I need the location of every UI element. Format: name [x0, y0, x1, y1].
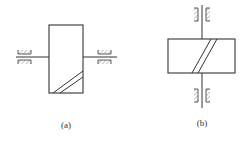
helix-line-1 — [53, 71, 83, 93]
diagram-canvas — [0, 0, 249, 141]
bearing-left-top — [18, 50, 31, 54]
diagram-b — [168, 5, 235, 108]
gear-body-a — [49, 25, 83, 93]
bearing-left-bottom — [18, 60, 31, 64]
helix-line-1 — [192, 39, 211, 73]
helix-line-2 — [198, 39, 217, 73]
bearing-bottom-right — [206, 89, 210, 102]
bearing-top-right — [206, 8, 210, 21]
bearing-right-top — [98, 50, 111, 54]
caption-a: (a) — [61, 120, 71, 130]
diagram-a — [16, 25, 117, 93]
bearing-bottom-left — [194, 89, 198, 102]
bearing-right-bottom — [98, 60, 111, 64]
caption-b: (b) — [197, 118, 208, 128]
bearing-top-left — [194, 8, 198, 21]
